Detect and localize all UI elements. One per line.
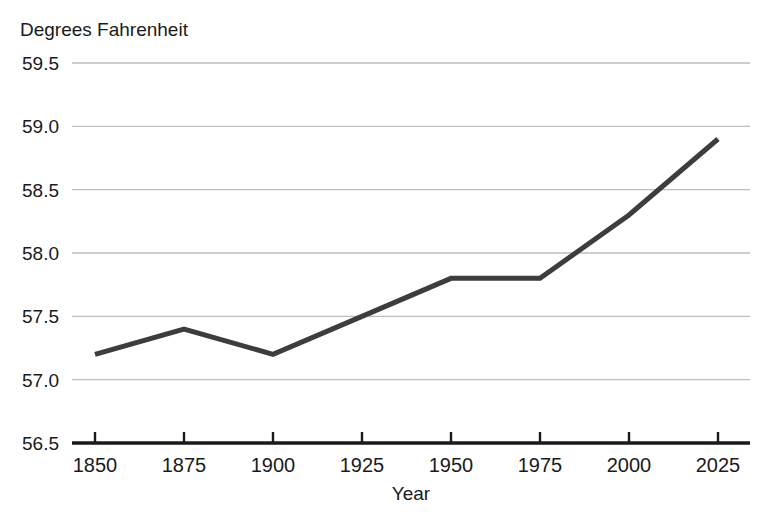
x-axis-tick-label: 1950 — [429, 454, 474, 476]
x-axis — [72, 432, 750, 443]
x-axis-title: Year — [392, 483, 431, 504]
y-axis-tick-label: 59.5 — [22, 53, 59, 74]
y-axis-tick-label: 58.0 — [22, 243, 59, 264]
x-axis-tick-label: 1875 — [162, 454, 207, 476]
x-axis-tick-label: 1900 — [251, 454, 296, 476]
x-axis-tick-labels: 18501875190019251950197520002025 — [73, 454, 741, 476]
y-axis-tick-label: 59.0 — [22, 116, 59, 137]
x-axis-tick-label: 2000 — [607, 454, 652, 476]
temperature-line — [95, 139, 718, 354]
x-axis-tick-label: 1850 — [73, 454, 118, 476]
y-axis-tick-label: 56.5 — [22, 433, 59, 454]
data-series-line — [95, 139, 718, 354]
x-axis-tick-label: 2025 — [696, 454, 741, 476]
y-axis-tick-labels: 56.557.057.558.058.559.059.5 — [22, 53, 59, 454]
y-axis-tick-label: 57.0 — [22, 370, 59, 391]
y-axis-tick-label: 57.5 — [22, 306, 59, 327]
line-chart-plot: 56.557.057.558.058.559.059.5 18501875190… — [0, 0, 765, 517]
x-axis-tick-label: 1975 — [518, 454, 563, 476]
y-axis-tick-label: 58.5 — [22, 180, 59, 201]
chart-figure: Degrees Fahrenheit 56.557.057.558.058.55… — [0, 0, 765, 517]
x-axis-tick-label: 1925 — [340, 454, 385, 476]
